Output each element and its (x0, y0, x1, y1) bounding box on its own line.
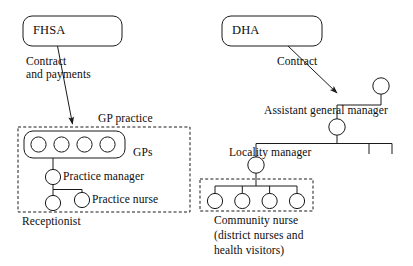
community-nurse-group-label-line3: health visitors) (214, 244, 284, 258)
dha-box-label: DHA (232, 23, 259, 38)
community-nurse-group-label-line1: Community nurse (214, 214, 298, 228)
receptionist-label: Receptionist (22, 215, 81, 229)
community-nurse-circle-3 (262, 193, 277, 208)
assistant-general-manager-circle (329, 119, 345, 135)
gps-container-shape (24, 131, 125, 158)
dha-edge-label: Contract (277, 55, 317, 69)
community-nurse-group-label-line2: (district nurses and (214, 229, 304, 243)
gp-circle-4 (100, 137, 115, 152)
community-nurse-circle-1 (207, 193, 222, 208)
practice-manager-circle (45, 169, 60, 184)
gp-circle-1 (31, 137, 46, 152)
fhsa-edge-label-line2: and payments (26, 68, 91, 82)
receptionist-circle (45, 195, 60, 210)
diagram-canvas: FHSA DHA Contract and payments Contract … (0, 0, 413, 266)
gp-circle-3 (77, 137, 92, 152)
practice-manager-label: Practice manager (63, 170, 144, 184)
agm-peer-circle (373, 78, 389, 94)
community-nurse-circle-4 (289, 193, 304, 208)
practice-nurse-label: Practice nurse (92, 193, 158, 207)
gp-practice-group-label: GP practice (98, 112, 153, 126)
practice-nurse-circle (74, 192, 89, 207)
community-nurse-circle-2 (235, 193, 250, 208)
locality-manager-label: Locality manager (229, 146, 311, 160)
gp-circle-2 (54, 137, 69, 152)
fhsa-box-label: FHSA (33, 23, 65, 38)
gps-label: GPs (133, 146, 152, 160)
fhsa-edge-label-line1: Contract (26, 55, 66, 69)
assistant-general-manager-label: Assistant general manager (264, 104, 388, 118)
dha-to-agm-arrow (288, 46, 337, 93)
